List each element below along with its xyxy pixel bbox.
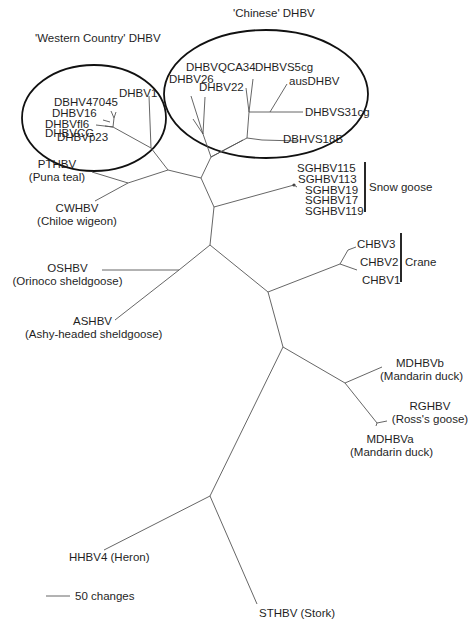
taxon-mdhbva: MDHBVa (Mandarin duck) (350, 433, 430, 459)
taxon-chbv1: CHBV1 (362, 274, 400, 287)
taxon-sghbv119: SGHBV119 (305, 205, 364, 218)
taxon-sthbv: STHBV (Stork) (259, 607, 335, 620)
taxon-dbhvs18b: DBHVS18B (283, 133, 343, 146)
western-group-title: 'Western Country' DHBV (35, 32, 161, 45)
taxon-cwhbv: CWHBV (Chiloe wigeon) (32, 202, 122, 228)
chinese-group-title: 'Chinese' DHBV (233, 7, 315, 20)
taxon-ashbv: ASHBV (Ashy-headed sheldgoose) (25, 315, 160, 341)
scale-bar-label: 50 changes (75, 590, 134, 603)
crane-group-label: Crane (405, 256, 436, 269)
taxon-rghbv: RGHBV (Ross's goose) (390, 400, 469, 426)
taxon-ausdhbv: ausDHBV (289, 75, 340, 88)
taxon-dhbv1: DHBV1 (119, 87, 157, 100)
taxon-chbv2: CHBV2 (360, 256, 398, 269)
taxon-hhbv4: HHBV4 (Heron) (69, 551, 150, 564)
taxon-dhbvs31cg: DHBVS31cg (305, 106, 370, 119)
taxon-chbv3: CHBV3 (357, 238, 395, 251)
taxon-western-4: DHBVp23 (57, 131, 108, 144)
taxon-mdhbvb: MDHBVb (Mandarin duck) (380, 357, 460, 383)
taxon-dhbv22: DHBV22 (199, 81, 244, 94)
taxon-dhbvs5cg: DHBVS5cg (255, 61, 313, 74)
snow-goose-group-label: Snow goose (369, 181, 432, 194)
taxon-pthbv: PTHBV (Puna teal) (22, 158, 92, 184)
backbone-branches (92, 170, 387, 604)
taxon-oshbv: OSHBV (Orinoco sheldgoose) (10, 262, 125, 288)
